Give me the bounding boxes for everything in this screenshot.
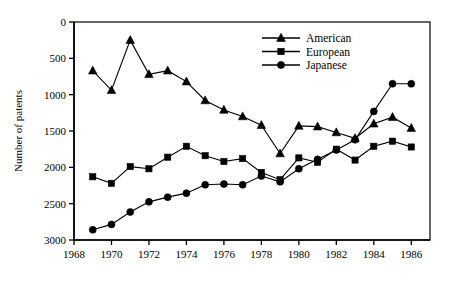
y-tick-label: 3000 [44,234,67,246]
circle-marker [352,136,359,143]
circle-marker [408,80,415,87]
circle-marker [333,146,340,153]
square-marker [165,154,171,160]
legend-item-european[interactable]: European [262,46,350,59]
legend-item-japanese[interactable]: Japanese [262,59,347,72]
y-tick-label: 2500 [44,198,67,210]
patents-line-chart: 3000250020001500100050001968197019721974… [0,0,460,281]
y-tick-label: 500 [50,52,67,64]
y-axis-title: Number of patents [12,90,24,172]
x-tick-label: 1968 [63,248,86,260]
square-marker [202,153,208,159]
circle-marker [127,209,134,216]
circle-marker [89,226,96,233]
square-marker [183,143,189,149]
triangle-marker [163,66,172,74]
triangle-marker [388,113,397,121]
series-american [88,36,415,157]
triangle-marker [182,77,191,85]
circle-marker [183,190,190,197]
legend-label: Japanese [306,59,347,72]
square-marker [352,157,358,163]
circle-marker [202,181,209,188]
x-tick-label: 1984 [363,248,386,260]
x-tick-label: 1976 [213,248,236,260]
series-line [93,40,412,153]
square-marker [371,143,377,149]
x-tick-label: 1978 [250,248,273,260]
legend-label: European [306,46,350,59]
x-tick-label: 1982 [325,248,347,260]
square-marker [221,158,227,164]
square-marker [278,48,284,54]
legend-item-american[interactable]: American [262,32,352,44]
triangle-marker [257,121,266,129]
triangle-marker [407,124,416,132]
circle-marker [295,165,302,172]
y-tick-label: 0 [61,16,67,28]
circle-marker [389,80,396,87]
square-marker [108,180,114,186]
x-tick-label: 1972 [138,248,160,260]
triangle-marker [295,121,304,129]
x-tick-label: 1986 [400,248,423,260]
y-tick-label: 1000 [44,89,67,101]
y-tick-label: 2000 [44,161,67,173]
circle-marker [108,221,115,228]
x-tick-label: 1974 [175,248,198,260]
plot-frame [74,22,430,240]
circle-marker [164,194,171,201]
square-marker [296,155,302,161]
circle-marker [314,156,321,163]
square-marker [90,174,96,180]
triangle-marker [220,105,229,113]
circle-marker [220,181,227,188]
series-european [90,138,415,186]
square-marker [389,138,395,144]
triangle-marker [88,66,97,74]
x-tick-label: 1970 [100,248,123,260]
series-line [93,84,412,230]
square-marker [408,144,414,150]
square-marker [127,164,133,170]
square-marker [240,156,246,162]
circle-marker [370,108,377,115]
triangle-marker [126,36,135,44]
circle-marker [277,61,284,68]
chart-canvas: 3000250020001500100050001968197019721974… [0,0,460,281]
square-marker [146,166,152,172]
series-line [93,141,412,183]
triangle-marker [277,33,286,41]
circle-marker [277,178,284,185]
legend-label: American [306,32,352,44]
y-tick-label: 1500 [44,125,67,137]
series-japanese [89,80,415,233]
circle-marker [258,173,265,180]
circle-marker [145,198,152,205]
x-tick-label: 1980 [288,248,311,260]
circle-marker [239,181,246,188]
